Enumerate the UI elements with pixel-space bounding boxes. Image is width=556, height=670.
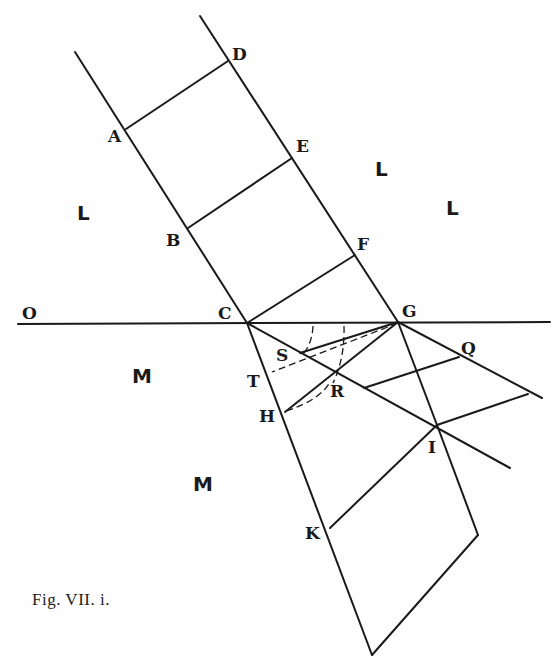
label-C: C (218, 305, 232, 322)
label-F: F (357, 236, 369, 253)
wavefront-KI (330, 425, 437, 528)
label-E: E (296, 138, 309, 155)
region-upper-left-L: L (77, 203, 90, 223)
line-GS (300, 322, 398, 353)
region-lower-mid-M: M (193, 474, 213, 494)
label-G: G (402, 303, 417, 320)
label-H: H (259, 408, 275, 425)
label-T: T (247, 373, 260, 390)
diagram-lines (0, 0, 556, 670)
label-K: K (305, 525, 320, 542)
label-O: O (22, 305, 37, 322)
label-B: B (166, 232, 180, 249)
label-I: I (428, 439, 436, 456)
ray-GQ (398, 322, 542, 398)
wavefront-BE (188, 158, 292, 228)
region-upper-mid-L: L (375, 159, 388, 179)
label-A: A (108, 128, 121, 145)
line-Q-cross (364, 357, 459, 388)
line-I-cross (437, 394, 528, 425)
incident-ray-left (75, 52, 247, 323)
bottom-edge (372, 535, 478, 655)
refraction-diagram: A B C D E F G H I K O Q R S T L L L M M … (0, 0, 556, 670)
refracted-ray-left (247, 323, 372, 655)
region-lower-left-M: M (132, 366, 152, 386)
figure-caption: Fig. VII. i. (32, 590, 110, 610)
incident-ray-right (200, 16, 398, 322)
region-upper-right-L: L (446, 198, 459, 218)
label-Q: Q (461, 340, 476, 357)
interface-line (18, 322, 550, 324)
wavefront-AD (126, 61, 228, 129)
wavefront-CF (247, 255, 355, 323)
label-S: S (276, 347, 288, 364)
label-D: D (232, 46, 247, 63)
label-R: R (330, 383, 344, 400)
ray-I-down (437, 425, 478, 535)
